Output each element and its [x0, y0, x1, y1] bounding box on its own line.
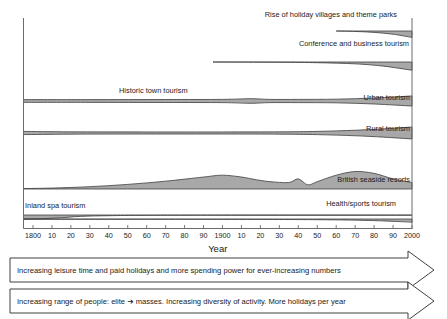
x-tick-label: 70 — [351, 231, 359, 240]
band-1 — [336, 31, 412, 37]
band-label: Historic town tourism — [119, 86, 188, 95]
x-tick-label: 80 — [181, 231, 189, 240]
band-label: Rise of holiday villages and theme parks — [265, 10, 398, 19]
x-tick-label: 10 — [48, 231, 56, 240]
x-tick-label: 80 — [370, 231, 378, 240]
band-shape — [24, 219, 413, 222]
x-tick-label: 20 — [67, 231, 75, 240]
banner-group: Increasing leisure time and paid holiday… — [10, 251, 434, 319]
x-tick-label: 40 — [294, 231, 302, 240]
x-tick-label: 90 — [200, 231, 208, 240]
x-tick-label: 60 — [332, 231, 340, 240]
x-tick-label: 20 — [256, 231, 264, 240]
x-tick-label: 1800 — [25, 231, 41, 240]
band-group — [24, 31, 413, 222]
x-tick-label: 90 — [389, 231, 397, 240]
band-3 — [24, 96, 413, 106]
band-label: Health/sports tourism — [326, 199, 396, 208]
diagram-canvas: Rise of holiday villages and theme parks… — [0, 0, 447, 319]
x-tick-group: 1800102030405060708090190010203040506070… — [25, 225, 420, 240]
band-label: British seaside resorts — [337, 175, 410, 184]
banner-leisure-time: Increasing leisure time and paid holiday… — [10, 251, 434, 289]
banner-text: Increasing leisure time and paid holiday… — [17, 266, 341, 275]
x-tick-label: 30 — [86, 231, 94, 240]
band-label: Rural tourism — [366, 124, 410, 133]
band-label: Inland spa tourism — [25, 201, 85, 210]
tourism-stream-diagram: Rise of holiday villages and theme parks… — [0, 0, 447, 319]
band-shape — [24, 215, 413, 219]
band-label: Urban tourism — [364, 93, 410, 102]
x-tick-label: 2000 — [404, 231, 420, 240]
band-2 — [213, 62, 412, 70]
band-6 — [24, 215, 413, 219]
band-7 — [24, 219, 413, 222]
band-shape — [336, 31, 412, 37]
band-shape — [24, 127, 413, 139]
x-tick-label: 60 — [143, 231, 151, 240]
x-axis-title: Year — [208, 243, 227, 254]
x-tick-label: 40 — [105, 231, 113, 240]
x-tick-label: 30 — [275, 231, 283, 240]
banner-text: Increasing range of people: elite ➔ mass… — [17, 297, 346, 306]
band-4 — [24, 127, 413, 139]
x-tick-label: 70 — [162, 231, 170, 240]
x-tick-label: 1900 — [214, 231, 230, 240]
x-tick-label: 50 — [124, 231, 132, 240]
x-tick-label: 10 — [237, 231, 245, 240]
band-shape — [213, 62, 412, 70]
band-shape — [24, 96, 413, 106]
band-label: Conference and business tourism — [299, 39, 409, 48]
banner-range-of-people: Increasing range of people: elite ➔ mass… — [10, 282, 434, 319]
x-tick-label: 50 — [313, 231, 321, 240]
